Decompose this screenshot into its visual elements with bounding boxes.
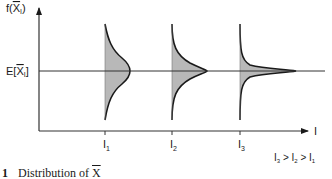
tick-label-3: I3	[238, 138, 245, 152]
inequality-label: I3 > I2 > I1	[274, 152, 316, 164]
caption-variable: X	[92, 166, 101, 179]
distribution-diagram: f(XI) E[XI] I I1 I2 I3 I3 > I2 > I1	[0, 0, 332, 179]
tick-label-2: I2	[170, 138, 177, 152]
y-axis-label: f(XI)	[6, 2, 26, 15]
mean-label: E[XI]	[6, 65, 29, 78]
caption-text: Distribution of	[18, 166, 92, 179]
x-axis-label: I	[314, 125, 317, 137]
caption-number: 1	[2, 166, 8, 179]
tick-label-1: I1	[103, 138, 110, 152]
distribution-curve-2	[172, 24, 207, 120]
figure-caption: 1Distribution of X	[2, 166, 101, 179]
